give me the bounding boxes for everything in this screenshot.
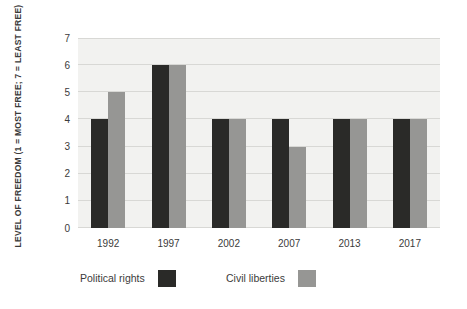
bar-political-rights-2002	[212, 119, 229, 228]
bar-civil-liberties-2007	[289, 147, 306, 228]
gridline-y2	[78, 173, 440, 174]
bar-civil-liberties-1997	[169, 65, 186, 228]
x-tick-2017: 2017	[380, 238, 440, 249]
bar-political-rights-2007	[272, 119, 289, 228]
y-tick-1: 1	[40, 195, 70, 206]
gridline-y0	[78, 227, 440, 228]
y-tick-4: 4	[40, 114, 70, 125]
y-axis-title: LEVEL OF FREEDOM (1 = MOST FREE; 7 = LEA…	[13, 5, 23, 248]
bar-political-rights-1997	[152, 65, 169, 228]
x-tick-1997: 1997	[139, 238, 199, 249]
bar-civil-liberties-1992	[108, 92, 125, 228]
y-tick-2: 2	[40, 168, 70, 179]
legend-swatch-political-rights	[158, 270, 176, 287]
gridline-y3	[78, 146, 440, 147]
y-tick-0: 0	[40, 223, 70, 234]
gridline-y4	[78, 118, 440, 119]
plot-area	[78, 38, 440, 228]
bar-civil-liberties-2017	[410, 119, 427, 228]
bar-civil-liberties-2013	[350, 119, 367, 228]
legend-label-political-rights: Political rights	[80, 272, 145, 284]
legend: Political rightsCivil liberties	[0, 268, 467, 292]
y-tick-5: 5	[40, 87, 70, 98]
bar-political-rights-1992	[91, 119, 108, 228]
x-tick-1992: 1992	[78, 238, 138, 249]
x-tick-2013: 2013	[320, 238, 380, 249]
gridline-y6	[78, 64, 440, 65]
gridline-y5	[78, 91, 440, 92]
y-tick-7: 7	[40, 33, 70, 44]
gridline-y1	[78, 200, 440, 201]
x-tick-2007: 2007	[259, 238, 319, 249]
y-tick-3: 3	[40, 141, 70, 152]
bar-political-rights-2013	[333, 119, 350, 228]
legend-item-political-rights: Political rights	[80, 268, 176, 288]
legend-swatch-civil-liberties	[298, 270, 316, 287]
x-tick-2002: 2002	[199, 238, 259, 249]
freedom-levels-bar-chart: LEVEL OF FREEDOM (1 = MOST FREE; 7 = LEA…	[0, 0, 467, 309]
bar-political-rights-2017	[393, 119, 410, 228]
legend-item-civil-liberties: Civil liberties	[226, 268, 316, 288]
y-tick-6: 6	[40, 60, 70, 71]
bar-civil-liberties-2002	[229, 119, 246, 228]
gridline-y7	[78, 38, 440, 39]
legend-label-civil-liberties: Civil liberties	[226, 272, 285, 284]
